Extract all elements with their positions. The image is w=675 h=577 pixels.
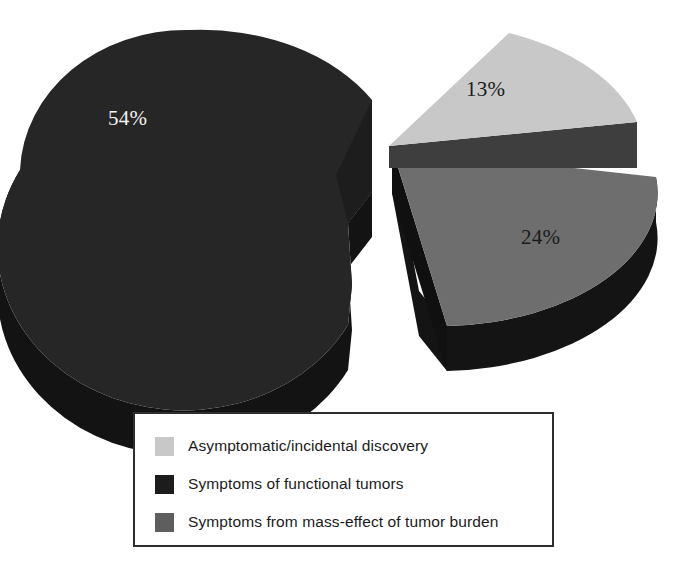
slice-label-dark: 54% bbox=[108, 106, 147, 130]
legend-item: Symptoms from mass-effect of tumor burde… bbox=[155, 504, 545, 540]
legend-item-label: Symptoms from mass-effect of tumor burde… bbox=[188, 513, 498, 531]
slice-label-light: 13% bbox=[466, 77, 505, 101]
legend-swatch-icon bbox=[155, 437, 174, 456]
legend-swatch-icon bbox=[155, 513, 174, 532]
pie-chart-figure: 54% 13% 24% Asymptomatic/incidental disc… bbox=[0, 0, 675, 577]
pie-slice-dark-exploded bbox=[0, 30, 372, 456]
legend-item-label: Symptoms of functional tumors bbox=[188, 475, 404, 493]
legend-item: Symptoms of functional tumors bbox=[155, 466, 545, 502]
pie-slice-medium-gray bbox=[392, 148, 658, 371]
chart-legend: Asymptomatic/incidental discovery Sympto… bbox=[133, 412, 554, 547]
legend-item: Asymptomatic/incidental discovery bbox=[155, 428, 545, 464]
pie-slice-dark-top bbox=[0, 30, 372, 411]
legend-item-label: Asymptomatic/incidental discovery bbox=[188, 437, 428, 455]
legend-swatch-icon bbox=[155, 475, 174, 494]
pie-slice-light-gray bbox=[389, 33, 637, 168]
slice-label-medium: 24% bbox=[521, 225, 560, 249]
legend-item-list: Asymptomatic/incidental discovery Sympto… bbox=[155, 428, 545, 542]
